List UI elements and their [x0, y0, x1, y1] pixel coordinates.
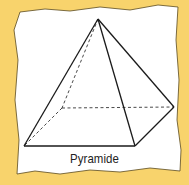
figure-caption: Pyramide: [11, 151, 177, 166]
paper-sheet: [14, 5, 181, 174]
